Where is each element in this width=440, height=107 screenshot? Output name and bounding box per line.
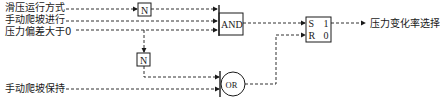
not-gate-1: N [138,3,151,16]
and-gate: AND [219,5,243,36]
sr-flipflop: S 1 R 0 [306,17,331,42]
wire-not2-or [144,66,219,77]
wire-or-sr-reset [245,35,305,84]
svg-text:AND: AND [221,19,243,30]
svg-text:1: 1 [324,18,329,29]
svg-text:S: S [309,18,315,29]
svg-text:OR: OR [226,80,238,90]
svg-text:N: N [141,5,148,16]
svg-text:N: N [140,55,147,66]
svg-text:0: 0 [324,30,329,41]
svg-text:R: R [309,30,316,41]
or-gate: OR [220,71,245,97]
not-gate-2: N [137,53,150,66]
